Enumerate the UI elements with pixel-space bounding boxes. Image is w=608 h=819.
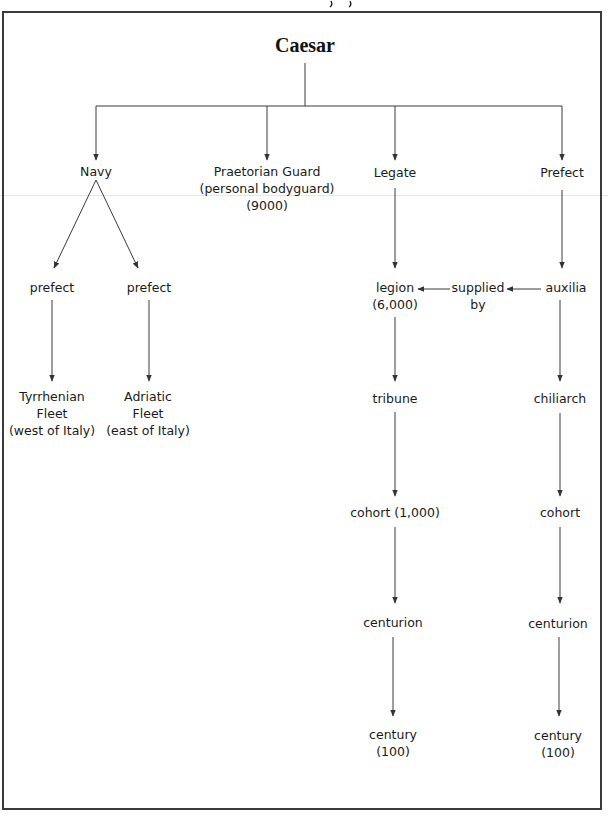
node-tyrrhenian-fleet-label: Fleet [9,405,95,422]
node-tribune-label: tribune [373,390,418,407]
node-navy: Navy [80,163,112,180]
node-prefect-label: Prefect [540,164,584,181]
node-cohort-legion: cohort (1,000) [350,504,440,521]
supplied-label: supplied [452,279,505,296]
node-century-auxilia-label: century [534,727,582,744]
node-adriatic-fleet: Adriatic Fleet (east of Italy) [106,388,190,439]
node-prefect: Prefect [540,164,584,181]
node-cohort-legion-label: cohort (1,000) [350,504,440,521]
node-adriatic-location: (east of Italy) [106,422,190,439]
node-prefect-right: prefect [127,279,171,296]
node-tyrrhenian-location: (west of Italy) [9,422,95,439]
node-praetorian-count: (9000) [200,197,335,214]
node-prefect-left: prefect [30,279,74,296]
node-legion: legion (6,000) [372,279,418,313]
node-auxilia-label: auxilia [545,279,586,296]
node-praetorian-sublabel: (personal bodyguard) [200,180,335,197]
node-century-legion: century (100) [369,726,417,760]
node-chiliarch: chiliarch [534,390,587,407]
node-century-auxilia-count: (100) [534,744,582,761]
node-prefect-right-label: prefect [127,279,171,296]
by-label: by [452,296,505,313]
node-century-legion-count: (100) [369,743,417,760]
node-century-legion-label: century [369,726,417,743]
arrow-navy-to-prefect-left [54,180,96,268]
node-auxilia: auxilia [545,279,586,296]
node-adriatic-label: Adriatic [106,388,190,405]
node-praetorian-guard: Praetorian Guard (personal bodyguard) (9… [200,163,335,214]
node-navy-label: Navy [80,163,112,180]
node-centurion-legion: centurion [363,614,423,631]
node-cohort-auxilia: cohort [540,504,580,521]
node-tyrrhenian-label: Tyrrhenian [9,388,95,405]
node-praetorian-label: Praetorian Guard [200,163,335,180]
node-cohort-auxilia-label: cohort [540,504,580,521]
node-legate-label: Legate [374,164,417,181]
node-supplied-by: supplied by [452,279,505,313]
cropped-title-fragment [330,1,351,7]
node-centurion-auxilia: centurion [528,615,588,632]
node-adriatic-fleet-label: Fleet [106,405,190,422]
node-caesar: Caesar [275,34,335,57]
node-legion-label: legion [372,279,418,296]
node-legate: Legate [374,164,417,181]
node-legion-count: (6,000) [372,296,418,313]
node-prefect-left-label: prefect [30,279,74,296]
node-centurion-auxilia-label: centurion [528,615,588,632]
node-century-auxilia: century (100) [534,727,582,761]
node-centurion-legion-label: centurion [363,614,423,631]
node-tribune: tribune [373,390,418,407]
node-tyrrhenian-fleet: Tyrrhenian Fleet (west of Italy) [9,388,95,439]
arrow-navy-to-prefect-right [96,180,138,268]
node-chiliarch-label: chiliarch [534,390,587,407]
